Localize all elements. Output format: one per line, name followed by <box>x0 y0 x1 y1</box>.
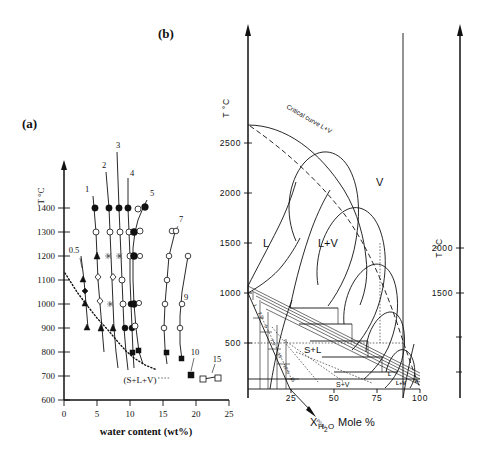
panel-a-ytick-7: 1300 <box>37 227 56 237</box>
panel-b-region-SV: S+V <box>336 381 350 388</box>
figure-root: (a) T °C 600 700 800 900 1000 1100 1200 … <box>0 0 499 450</box>
panel-a-ytick-0: 600 <box>42 395 56 405</box>
panel-b-rytick-2000: 2000 <box>432 243 453 253</box>
panel-b-left-axis-title: T °C <box>221 98 231 117</box>
panel-b-region-V: V <box>376 176 384 188</box>
panel-a-xtick-3: 15 <box>159 409 169 419</box>
panel-a-ytick-4: 1000 <box>37 299 56 309</box>
panel-a-symbol-10 <box>188 372 194 378</box>
panel-b-region-L: L <box>263 237 269 249</box>
panel-a-curvelabel-9: 9 <box>184 292 188 302</box>
panel-a-xtick-5: 25 <box>225 409 235 419</box>
panel-a-curvelabel-1: 1 <box>85 184 89 194</box>
panel-a-ytick-8: 1400 <box>37 203 56 213</box>
panel-a-symbol-15b <box>215 375 221 381</box>
panel-a-ytick-3: 900 <box>42 323 56 333</box>
panel-a-curvelabel-15: 15 <box>213 354 222 364</box>
panel-b-region-LV: L+V <box>318 237 339 249</box>
panel-a-curvelabel-10: 10 <box>191 347 200 357</box>
panel-a-xtick-0: 0 <box>62 409 67 419</box>
panel-a-symbol-15a <box>200 376 206 382</box>
canvas-background <box>0 0 499 450</box>
panel-b-region-LV-small: L+V <box>396 380 406 386</box>
panel-a-curvelabel-7: 7 <box>179 214 183 224</box>
panel-b-ytick-500: 500 <box>225 338 241 348</box>
panel-a-ytick-2: 800 <box>42 347 56 357</box>
panel-b-xtitle-O: O <box>328 422 334 431</box>
panel-a-ytick-6: 1200 <box>37 251 56 261</box>
panel-a-ytick-5: 1100 <box>37 275 55 285</box>
panel-b-ytick-2000: 2000 <box>220 188 241 198</box>
panel-b-tag: (b) <box>158 26 174 41</box>
panel-b-xtick-100: 100 <box>412 393 428 403</box>
panel-b-ytick-2500: 2500 <box>220 138 241 148</box>
panel-b-region-V-small: V <box>414 378 418 384</box>
panel-a-tag: (a) <box>22 116 37 131</box>
panel-b-region-SL: S+L <box>304 344 321 355</box>
panel-a-xtick-4: 20 <box>192 409 202 419</box>
panel-b-ytick-1500: 1500 <box>220 238 241 248</box>
panel-b-ytick-1000: 1000 <box>220 288 241 298</box>
panel-b-xtitle-tail: Mole % <box>338 416 375 428</box>
panel-b-xtick-75: 75 <box>372 393 383 403</box>
panel-b-xtick-50: 50 <box>329 393 340 403</box>
panel-a-curvelabel-2: 2 <box>102 160 106 170</box>
panel-b-rytick-1500: 1500 <box>432 288 453 298</box>
panel-a-xtick-2: 10 <box>126 409 136 419</box>
panel-a-curvelabel-3: 3 <box>116 140 120 150</box>
panel-a-slv-annotation: (S+L+V) <box>123 375 156 385</box>
panel-a-ytick-1: 700 <box>42 371 56 381</box>
panel-a-xtick-1: 5 <box>95 409 100 419</box>
panel-a-x-axis-title: water content (wt%) <box>100 426 193 438</box>
panel-a-curvelabel-5: 5 <box>150 188 154 198</box>
phase-diagram-figure: (a) T °C 600 700 800 900 1000 1100 1200 … <box>0 0 499 450</box>
panel-a-curvelabel-0p5: 0.5 <box>69 245 80 255</box>
